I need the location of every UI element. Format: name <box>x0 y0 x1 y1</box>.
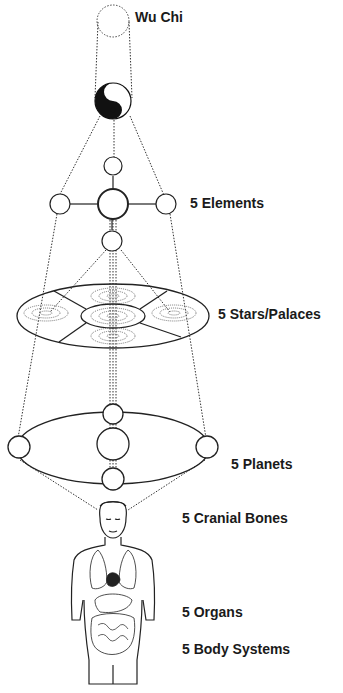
yin-yang-icon <box>95 83 131 119</box>
label-five-cranial-bones: 5 Cranial Bones <box>182 510 288 526</box>
human-body-figure <box>71 502 154 685</box>
label-wu-chi: Wu Chi <box>135 9 183 25</box>
label-five-elements: 5 Elements <box>190 195 264 211</box>
label-five-body-systems: 5 Body Systems <box>182 641 290 657</box>
planets-orbit <box>8 404 218 490</box>
label-five-organs: 5 Organs <box>182 604 243 620</box>
cosmology-diagram <box>0 0 343 693</box>
five-elements-cross <box>50 157 176 251</box>
label-five-stars-palaces: 5 Stars/Palaces <box>218 306 321 322</box>
label-five-planets: 5 Planets <box>231 456 292 472</box>
wu-chi-circle <box>97 5 129 37</box>
